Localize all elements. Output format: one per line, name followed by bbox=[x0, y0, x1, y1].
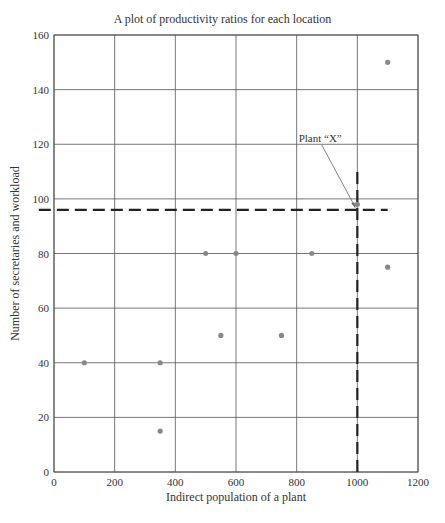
data-point bbox=[203, 251, 208, 256]
data-point bbox=[158, 360, 163, 365]
annotation-label: Plant “X” bbox=[299, 132, 342, 144]
y-tick-label: 40 bbox=[38, 357, 50, 369]
arrowhead-icon bbox=[351, 202, 355, 208]
x-tick-label: 1000 bbox=[346, 476, 369, 488]
x-tick-label: 600 bbox=[228, 476, 245, 488]
x-tick-label: 800 bbox=[288, 476, 305, 488]
x-tick-label: 0 bbox=[51, 476, 57, 488]
data-point bbox=[82, 360, 87, 365]
annotation-leader-line bbox=[322, 145, 356, 208]
y-tick-label: 20 bbox=[38, 411, 50, 423]
y-tick-label: 80 bbox=[38, 248, 50, 260]
y-tick-label: 140 bbox=[33, 84, 50, 96]
y-tick-label: 120 bbox=[33, 138, 50, 150]
x-axis-label: Indirect population of a plant bbox=[54, 490, 418, 505]
data-point bbox=[158, 428, 163, 433]
y-axis-label: Number of secretaries and workload bbox=[8, 144, 23, 364]
data-point bbox=[309, 251, 314, 256]
y-tick-label: 160 bbox=[33, 29, 50, 41]
data-point bbox=[385, 265, 390, 270]
data-point bbox=[233, 251, 238, 256]
x-tick-label: 1200 bbox=[407, 476, 430, 488]
x-tick-label: 200 bbox=[106, 476, 123, 488]
tick-labels: 0200400600800100012000204060801001201401… bbox=[33, 29, 430, 488]
y-tick-label: 0 bbox=[44, 466, 50, 478]
x-tick-label: 400 bbox=[167, 476, 184, 488]
data-point bbox=[218, 333, 223, 338]
data-point bbox=[385, 60, 390, 65]
reference-lines bbox=[39, 172, 388, 472]
plant-x-point bbox=[355, 202, 360, 207]
y-tick-label: 100 bbox=[33, 193, 50, 205]
data-point bbox=[279, 333, 284, 338]
y-tick-label: 60 bbox=[38, 302, 50, 314]
annotation: Plant “X” bbox=[299, 132, 360, 209]
scatter-chart: 0200400600800100012000204060801001201401… bbox=[0, 0, 445, 523]
